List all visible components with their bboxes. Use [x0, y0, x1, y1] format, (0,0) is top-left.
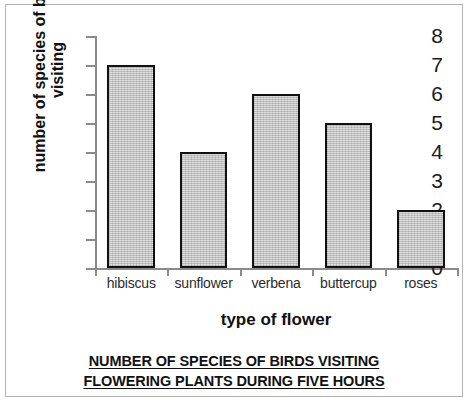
x-axis-category-label: hibiscus	[95, 276, 167, 290]
y-axis-tick-label: 7	[403, 54, 443, 75]
y-axis-tick	[86, 36, 95, 38]
y-axis-tick-label: 4	[403, 141, 443, 162]
x-axis-tick	[457, 268, 459, 276]
y-axis-tick-label: 3	[403, 170, 443, 191]
y-axis-title: number of species of birds visiting	[19, 0, 79, 185]
x-axis-title: type of flower	[95, 310, 457, 330]
y-axis-title-line-2: visiting	[49, 0, 67, 185]
x-axis-tick	[312, 268, 314, 276]
y-axis-tick	[86, 65, 95, 67]
plot-area: 012345678	[95, 36, 457, 268]
y-axis-tick-label: 6	[403, 83, 443, 104]
caption-line-2: FLOWERING PLANTS DURING FIVE HOURS	[83, 372, 384, 392]
chart-page: number of species of birds visiting 0123…	[0, 0, 468, 402]
x-axis-category-label: buttercup	[312, 276, 384, 290]
y-axis-tick	[86, 152, 95, 154]
bar-roses	[397, 210, 445, 268]
x-axis-tick	[95, 268, 97, 276]
y-axis-tick	[86, 123, 95, 125]
y-axis-title-line-1: number of species of birds	[31, 0, 49, 185]
bar-hibiscus	[107, 65, 155, 268]
bar-sunflower	[180, 152, 228, 268]
y-axis-tick	[86, 181, 95, 183]
y-axis-tick	[86, 210, 95, 212]
y-axis-tick	[86, 239, 95, 241]
y-axis-tick-label: 5	[403, 112, 443, 133]
x-axis-tick	[240, 268, 242, 276]
y-axis-tick	[86, 94, 95, 96]
x-axis-tick	[167, 268, 169, 276]
chart-caption: NUMBER OF SPECIES OF BIRDS VISITING FLOW…	[24, 352, 444, 391]
x-axis-category-label: sunflower	[167, 276, 239, 290]
x-axis-tick	[385, 268, 387, 276]
x-axis-category-label: verbena	[240, 276, 312, 290]
bar-buttercup	[325, 123, 373, 268]
bar-verbena	[252, 94, 300, 268]
caption-line-1: NUMBER OF SPECIES OF BIRDS VISITING	[89, 352, 380, 372]
y-axis-tick	[86, 268, 95, 270]
x-axis-category-label: roses	[385, 276, 457, 290]
y-axis-tick-label: 8	[403, 25, 443, 46]
